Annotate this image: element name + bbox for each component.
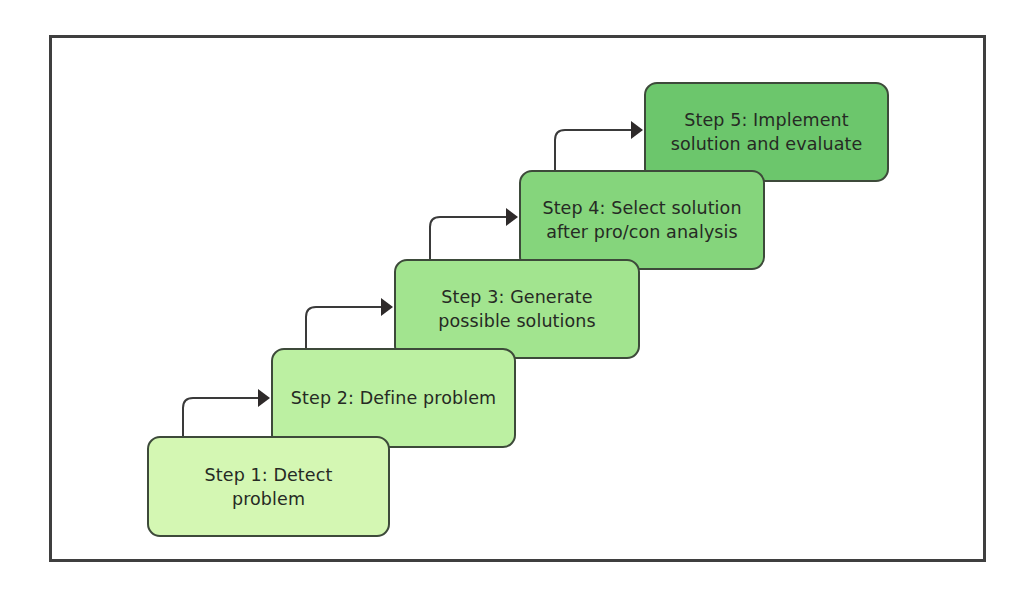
step-1-label: Step 1: Detect problem [205,463,333,511]
step-5-box: Step 5: Implement solution and evaluate [644,82,889,182]
step-4-box: Step 4: Select solution after pro/con an… [519,170,765,270]
step-4-label: Step 4: Select solution after pro/con an… [542,196,741,244]
step-2-box: Step 2: Define problem [271,348,516,448]
step-5-label: Step 5: Implement solution and evaluate [671,108,863,156]
step-1-box: Step 1: Detect problem [147,436,390,537]
step-2-label: Step 2: Define problem [291,386,496,410]
step-3-box: Step 3: Generate possible solutions [394,259,640,359]
step-3-label: Step 3: Generate possible solutions [438,285,595,333]
